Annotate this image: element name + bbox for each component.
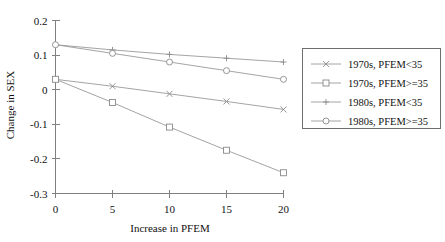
y-tick-label: -0.2 <box>30 153 47 165</box>
y-tick-label: -0.1 <box>30 118 47 130</box>
data-point-marker <box>167 59 173 65</box>
data-point-marker <box>281 170 287 176</box>
data-point-marker <box>281 59 287 65</box>
x-tick-label: 10 <box>164 203 176 215</box>
chart-axes <box>56 21 284 194</box>
data-point-marker <box>323 80 329 86</box>
y-tick-label: 0 <box>42 84 48 96</box>
legend-label: 1970s, PFEM<35 <box>348 59 422 70</box>
y-axis-title: Change in SEX <box>4 71 16 139</box>
chart-tick-marks <box>52 21 284 198</box>
data-point-marker <box>110 100 116 106</box>
x-tick-label: 0 <box>53 203 59 215</box>
x-tick-label: 20 <box>278 203 290 215</box>
data-point-marker <box>224 68 230 74</box>
data-point-marker <box>110 50 116 56</box>
y-tick-label: 0.2 <box>34 15 48 27</box>
legend-label: 1980s, PFEM<35 <box>348 97 422 108</box>
data-point-marker <box>224 147 230 153</box>
legend-label: 1970s, PFEM>=35 <box>348 78 428 89</box>
chart-legend: 1970s, PFEM<351970s, PFEM>=351980s, PFEM… <box>303 49 441 129</box>
legend-label: 1980s, PFEM>=35 <box>348 116 428 127</box>
x-tick-label: 5 <box>110 203 116 215</box>
x-tick-label: 15 <box>221 203 233 215</box>
x-axis-title: Increase in PFEM <box>130 222 210 234</box>
data-point-marker <box>53 42 59 48</box>
chart-series-group <box>53 42 287 176</box>
data-point-marker <box>281 76 287 82</box>
data-point-marker <box>167 124 173 130</box>
y-tick-label: -0.3 <box>30 188 48 200</box>
x-axis-tick-labels: 05101520 <box>53 203 290 215</box>
data-point-marker <box>224 55 230 61</box>
y-axis-tick-labels: 0.20.10-0.1-0.2-0.3 <box>30 15 48 200</box>
line-chart: 0.20.10-0.1-0.2-0.3 05101520 Change in S… <box>0 0 445 242</box>
chart-figure: 0.20.10-0.1-0.2-0.3 05101520 Change in S… <box>0 0 445 242</box>
y-tick-label: 0.1 <box>34 49 48 61</box>
series-1970s-pfem-35 <box>53 76 287 112</box>
data-point-marker <box>323 118 329 124</box>
data-point-marker <box>167 51 173 57</box>
data-point-marker <box>53 76 59 82</box>
series-1970s-pfem-35 <box>53 76 287 175</box>
